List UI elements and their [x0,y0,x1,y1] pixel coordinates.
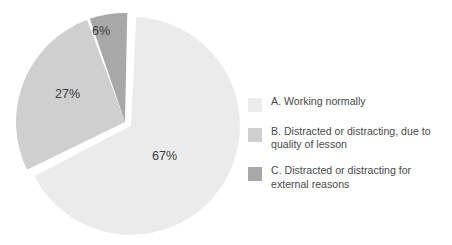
legend-label-a: A. Working normally [271,92,366,108]
chart-legend: A. Working normally B. Distracted or dis… [248,92,452,201]
legend-swatch-c [248,167,262,181]
legend-swatch-a [248,98,262,112]
pie-slice-label-b: 27% [55,87,80,101]
legend-item-c[interactable]: C. Distracted or distracting for externa… [248,161,452,190]
legend-label-c: C. Distracted or distracting for externa… [271,161,443,190]
pie-chart-plot: 67% 27% 6% [0,0,245,245]
pie-slice-label-c: 6% [92,24,110,38]
legend-item-a[interactable]: A. Working normally [248,92,452,112]
legend-swatch-b [248,128,262,142]
legend-item-b[interactable]: B. Distracted or distracting, due to qua… [248,122,452,151]
pie-svg [0,0,245,245]
pie-chart-figure: 67% 27% 6% A. Working normally B. Distra… [0,0,452,245]
legend-label-b: B. Distracted or distracting, due to qua… [271,122,443,151]
pie-slice-label-a: 67% [152,149,177,163]
